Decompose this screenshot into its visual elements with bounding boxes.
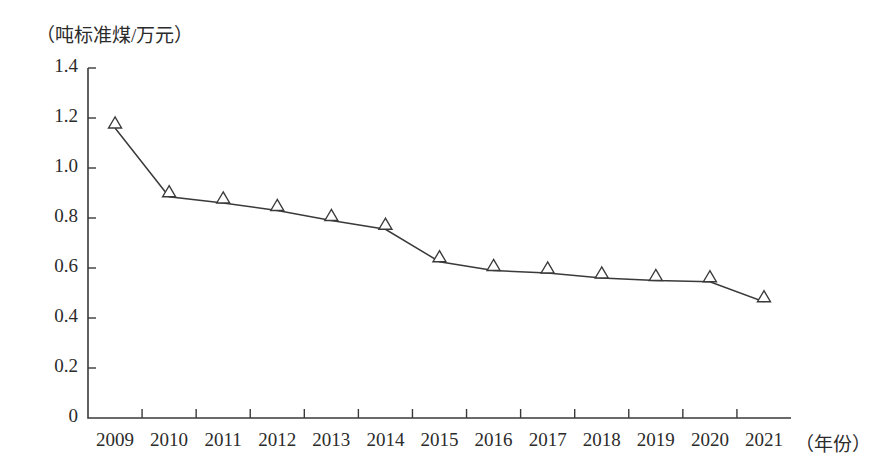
y-axis-tick-label: 0 [32,405,78,427]
x-axis-tick-label: 2014 [358,429,412,451]
y-axis-tick-label: 1.4 [32,55,78,77]
data-point-marker [703,271,716,282]
x-axis-tick-label: 2017 [521,429,575,451]
data-point-marker [217,192,230,203]
axes-group [88,68,791,418]
data-point-marker [487,260,500,271]
x-axis-tick-label: 2015 [412,429,466,451]
y-axis-tick-label: 0.4 [32,305,78,327]
x-axis-tick-label: 2011 [196,429,250,451]
y-axis-tick-label: 0.6 [32,255,78,277]
data-point-marker [595,267,608,278]
x-axis-tick-label: 2019 [629,429,683,451]
data-point-marker [433,251,446,262]
x-axis-tick-label: 2021 [737,429,791,451]
data-point-marker [541,262,554,273]
y-axis-tick-label: 1.2 [32,105,78,127]
line-chart: （吨标准煤/万元） 00.20.40.60.81.01.21.4 2009201… [0,0,890,475]
axis-ticks-group [88,68,737,418]
data-point-marker [109,117,122,128]
x-axis-tick-label: 2020 [683,429,737,451]
data-point-marker [271,200,284,211]
x-axis-tick-label: 2013 [304,429,358,451]
x-axis-tick-label: 2010 [142,429,196,451]
x-axis-tick-label: 2009 [88,429,142,451]
data-point-marker [379,218,392,229]
x-axis-tick-label: 2016 [467,429,521,451]
x-axis-tick-label: 2018 [575,429,629,451]
data-series-group [115,128,764,302]
x-axis-tick-label: 2012 [250,429,304,451]
y-axis-tick-label: 0.2 [32,355,78,377]
data-point-marker [649,270,662,281]
y-axis-tick-label: 1.0 [32,155,78,177]
y-axis-tick-label: 0.8 [32,205,78,227]
data-markers-group [109,117,771,302]
data-point-marker [757,291,770,302]
data-point-marker [325,210,338,221]
x-axis-title: （年份） [795,429,871,456]
chart-plot-area [0,0,890,475]
